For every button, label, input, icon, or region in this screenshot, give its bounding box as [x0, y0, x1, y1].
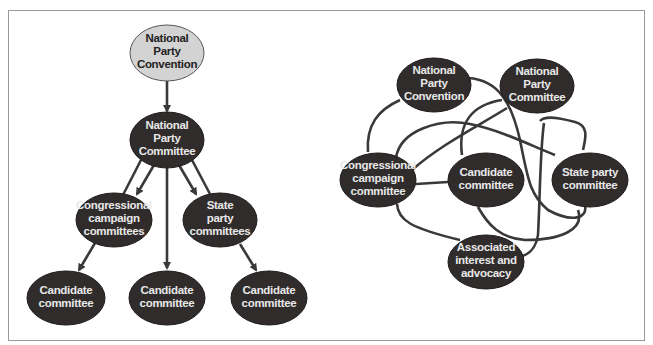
diagram-canvas: NationalPartyConvention NationalPartyCom… [0, 0, 653, 345]
svg-text:State partycommittee: State partycommittee [562, 166, 619, 191]
svg-text:Candidatecommittee: Candidatecommittee [140, 284, 195, 309]
edge-committee-to-congressional-b [137, 165, 154, 194]
svg-text:Associatedinterest andadvocacy: Associatedinterest andadvocacy [455, 241, 517, 279]
right-node-national-party-convention: NationalPartyConvention [397, 58, 471, 112]
svg-text:Candidatecommittee: Candidatecommittee [459, 166, 514, 191]
edge-committee-to-state-b [192, 160, 210, 194]
left-node-national-party-convention: NationalPartyConvention [130, 25, 204, 81]
edge-committee-to-state-a [179, 165, 196, 194]
right-node-associated-interest-and-advocacy: Associatedinterest andadvocacy [448, 235, 524, 289]
right-node-candidate-committee: Candidatecommittee [448, 153, 524, 207]
edge-state-to-candidate [240, 244, 256, 270]
svg-text:Candidatecommittee: Candidatecommittee [242, 284, 297, 309]
right-node-congressional-campaign-committee: Congressionalcampaigncommittee [340, 153, 416, 207]
left-node-state-party-committees: Statepartycommittees [183, 193, 257, 247]
svg-text:Candidatecommittee: Candidatecommittee [39, 284, 94, 309]
right-node-state-party-committee: State partycommittee [552, 153, 628, 207]
left-node-candidate-committee-3: Candidatecommittee [231, 271, 307, 325]
left-node-national-party-committee: NationalPartyCommittee [130, 112, 204, 168]
edge-committee-state [540, 118, 585, 150]
edge-congressional-candidate [416, 182, 448, 184]
right-node-national-party-committee: NationalPartyCommittee [500, 59, 574, 113]
edge-congressional-to-candidate [79, 243, 95, 270]
edge-convention-congressional [368, 100, 400, 152]
left-node-congressional-campaign-committees: Congressionalcampaigncommittees [76, 193, 152, 247]
left-node-candidate-committee-1: Candidatecommittee [27, 271, 105, 325]
edge-congressional-assoc [397, 204, 460, 240]
left-node-candidate-committee-2: Candidatecommittee [129, 271, 205, 325]
